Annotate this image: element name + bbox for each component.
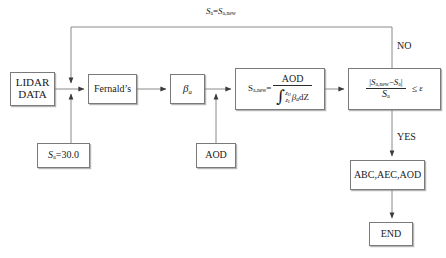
label-no: NO xyxy=(397,40,411,51)
condition-fraction: |Sa,new−Sa| Sa xyxy=(366,78,405,100)
feedback-rhs-subscript: a,new xyxy=(223,10,236,16)
condition-denominator: Sa xyxy=(366,88,405,100)
sa-initial-label: Sa=30.0 xyxy=(48,150,79,161)
node-sa-initial[interactable]: Sa=30.0 xyxy=(37,143,90,168)
node-condition[interactable]: |Sa,new−Sa| Sa ≤ ε xyxy=(348,68,441,110)
formula-fraction: AOD ∫zHzLβadZ xyxy=(273,74,312,103)
node-aod-input[interactable]: AOD xyxy=(196,143,236,168)
node-beta-a[interactable]: βa xyxy=(170,74,205,104)
integral-lower-limit: zL xyxy=(285,97,290,104)
integral-differential: dZ xyxy=(299,92,309,102)
integral-limits: zHzL xyxy=(285,90,290,104)
node-outputs[interactable]: ABC,AEC,AOD xyxy=(350,160,425,190)
node-end[interactable]: END xyxy=(369,222,413,246)
label-yes: YES xyxy=(397,131,416,142)
abs-bar-close: | xyxy=(401,77,403,87)
condition-num-first-subscript: a,new xyxy=(376,81,389,87)
formula-equals: = xyxy=(266,83,271,93)
condition-numerator: |Sa,new−Sa| xyxy=(366,78,405,88)
condition-operator: ≤ xyxy=(412,84,418,95)
node-formula[interactable]: Sa,new= AOD ∫zHzLβadZ xyxy=(235,68,325,110)
end-label: END xyxy=(381,229,402,240)
condition-epsilon: ε xyxy=(419,84,423,94)
sa-initial-value: =30.0 xyxy=(56,149,79,160)
node-fernalds[interactable]: Fernald’s xyxy=(88,74,137,104)
integral-lower-subscript: L xyxy=(288,98,290,103)
beta-subscript: a xyxy=(189,88,192,95)
condition-den-subscript: a xyxy=(387,92,390,99)
beta-a-label: βa xyxy=(183,83,192,95)
integrand: βa xyxy=(292,92,299,102)
formula-lhs: Sa,new= xyxy=(248,84,271,94)
flowchart-canvas: LIDAR DATA Fernald’s βa Sa=30.0 AOD Sa,n… xyxy=(0,0,446,258)
condition-expression: |Sa,new−Sa| Sa ≤ ε xyxy=(366,78,422,100)
integral-icon: ∫ xyxy=(276,91,285,103)
label-feedback: Sa=Sa,new xyxy=(206,6,236,16)
node-lidar-data[interactable]: LIDAR DATA xyxy=(10,72,55,106)
formula-denominator: ∫zHzLβadZ xyxy=(273,85,312,103)
formula-numerator: AOD xyxy=(273,74,312,85)
aod-input-label: AOD xyxy=(205,150,227,161)
outputs-label: ABC,AEC,AOD xyxy=(354,170,421,181)
lidar-data-line2: DATA xyxy=(18,89,46,101)
formula-lhs-subscript: a,new xyxy=(253,87,266,93)
connector-layer xyxy=(0,0,446,258)
formula-expression: Sa,new= AOD ∫zHzLβadZ xyxy=(248,74,312,103)
fernalds-label: Fernald’s xyxy=(94,84,131,95)
